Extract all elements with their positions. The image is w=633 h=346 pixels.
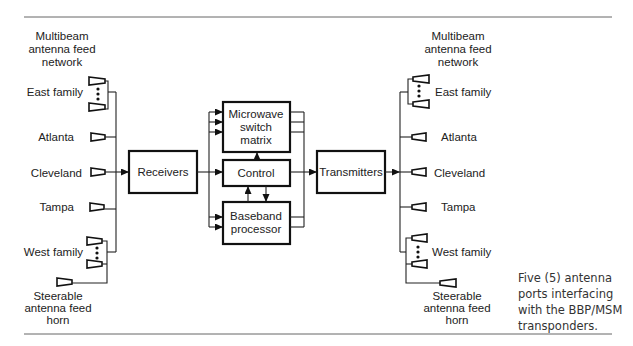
left-label-east-family: East family bbox=[27, 86, 83, 98]
horn-icon bbox=[89, 77, 105, 85]
right-label-west-family: West family bbox=[432, 246, 491, 258]
horn-icon bbox=[440, 279, 456, 287]
horn-icon bbox=[412, 133, 426, 141]
right-label-cleveland: Cleveland bbox=[434, 167, 485, 179]
horn-icon bbox=[412, 234, 427, 242]
left-label-cleveland: Cleveland bbox=[31, 167, 82, 179]
right-title-line-1: Multibeam bbox=[431, 30, 484, 42]
horn-icon bbox=[91, 168, 105, 176]
right-title-line-3: network bbox=[438, 56, 479, 68]
control-label: Control bbox=[237, 167, 274, 179]
horn-icon bbox=[412, 260, 427, 268]
left-title-line-3: network bbox=[42, 56, 83, 68]
horn-icon bbox=[412, 168, 426, 176]
horn-icon bbox=[412, 203, 426, 211]
left-steerable-line-1: Steerable bbox=[33, 290, 82, 302]
horn-icon bbox=[91, 133, 105, 141]
left-title-line-2: antenna feed bbox=[28, 43, 95, 55]
left-title-line-1: Multibeam bbox=[35, 30, 88, 42]
left-label-west-family: West family bbox=[24, 246, 83, 258]
left-label-tampa: Tampa bbox=[39, 201, 74, 213]
msm-label-line-1: Microwave bbox=[229, 108, 284, 120]
bbp-label-line-1: Baseband bbox=[230, 210, 282, 222]
left-steerable-line-3: horn bbox=[46, 314, 69, 326]
horn-icon bbox=[413, 100, 429, 108]
horn-icon bbox=[57, 278, 72, 286]
right-steerable-line-1: Steerable bbox=[432, 290, 481, 302]
switching-to-transmitters-wires bbox=[290, 112, 316, 227]
figure-caption: Five (5) antenna ports interfacing with … bbox=[518, 270, 628, 334]
bbp-label-line-2: processor bbox=[231, 223, 282, 235]
left-label-atlanta: Atlanta bbox=[38, 131, 74, 143]
horn-icon bbox=[90, 203, 104, 211]
right-steerable-line-3: horn bbox=[445, 314, 468, 326]
right-steerable-line-2: antenna feed bbox=[423, 302, 490, 314]
msm-label-line-2: switch bbox=[240, 121, 272, 133]
horn-icon bbox=[413, 75, 429, 83]
right-label-atlanta: Atlanta bbox=[441, 131, 477, 143]
receivers-to-switching-wires bbox=[197, 112, 222, 227]
horn-icon bbox=[89, 103, 105, 111]
horn-icon bbox=[87, 237, 102, 245]
transmitters-label: Transmitters bbox=[319, 166, 383, 178]
right-label-east-family: East family bbox=[435, 86, 491, 98]
left-steerable-line-2: antenna feed bbox=[24, 302, 91, 314]
msm-label-line-3: matrix bbox=[240, 134, 272, 146]
horn-icon bbox=[87, 260, 102, 268]
receivers-label: Receivers bbox=[137, 166, 188, 178]
right-label-tampa: Tampa bbox=[441, 201, 476, 213]
right-title-line-2: antenna feed bbox=[424, 43, 491, 55]
